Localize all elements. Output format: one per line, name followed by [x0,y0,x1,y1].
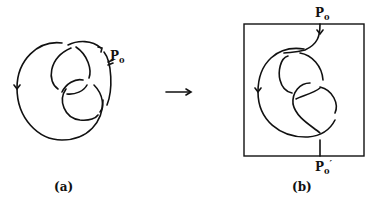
bottom-point-label: P [315,160,324,174]
panel-a-knot [14,42,113,140]
knot-diagram [0,0,379,208]
point-subscript: 0 [119,55,125,65]
panel-b-knot [255,24,336,156]
top-point-subscript: 0 [324,12,330,22]
caption-b: (b) [292,180,312,194]
panel-b-box [244,24,364,156]
point-label: P [110,49,119,63]
transform-arrow-icon [166,89,191,95]
bottom-point-prime: ′ [330,158,333,169]
top-point-label: P [315,6,324,20]
top-label-b: P0 [315,6,330,22]
caption-a: (a) [54,180,73,194]
bottom-label-b: P0′ [315,158,332,176]
basepoint-label-a: P0 [110,49,125,65]
